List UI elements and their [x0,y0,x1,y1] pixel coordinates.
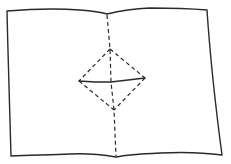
diamond-fold-top-right [110,49,145,78]
center-fold-line [107,15,116,156]
diamond-fold-bottom-right [114,78,145,110]
diagram-canvas [0,0,231,164]
diamond-fold-bottom-left [79,81,114,110]
fold-pattern-drawing [0,0,231,164]
diamond-fold-top-left [79,49,110,81]
horizontal-cut-line [79,78,145,82]
